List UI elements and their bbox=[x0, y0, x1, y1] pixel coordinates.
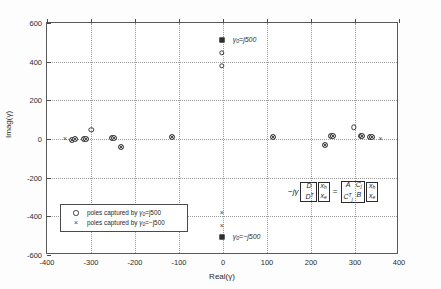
x-tick bbox=[355, 19, 356, 23]
equation-equals: = bbox=[333, 187, 338, 196]
x-tick bbox=[179, 19, 180, 23]
y-tick bbox=[47, 62, 51, 63]
data-point-overlap bbox=[69, 137, 75, 143]
legend-row-cross: poles captured by γ0=−j500 bbox=[65, 218, 183, 228]
data-point-circle bbox=[219, 50, 224, 55]
gridline-vertical bbox=[311, 23, 312, 253]
gridline-horizontal bbox=[47, 178, 397, 179]
x-axis-title: Real(γ) bbox=[46, 272, 398, 281]
y-tick-label: 200 bbox=[29, 96, 42, 105]
x-tick bbox=[135, 19, 136, 23]
data-point-cross bbox=[219, 223, 225, 229]
y-tick-label: -600 bbox=[27, 251, 42, 260]
data-point-overlap bbox=[81, 136, 87, 142]
x-tick-label: -100 bbox=[171, 258, 186, 267]
x-tick-label: 200 bbox=[305, 258, 318, 267]
data-point-shift bbox=[219, 234, 224, 239]
y-tick bbox=[47, 178, 51, 179]
legend-box: poles captured by γ0=j500 poles captured… bbox=[60, 204, 188, 232]
data-point-cross bbox=[378, 136, 384, 142]
x-tick bbox=[91, 19, 92, 23]
data-point-overlap bbox=[369, 134, 375, 140]
y-tick bbox=[47, 23, 51, 24]
gridline-vertical bbox=[267, 23, 268, 253]
data-point-overlap bbox=[72, 136, 78, 142]
cross-marker bbox=[65, 220, 87, 226]
gridline-vertical bbox=[355, 23, 356, 253]
y-tick bbox=[47, 139, 51, 140]
y-tick-label: -200 bbox=[27, 173, 42, 182]
data-point-overlap bbox=[118, 144, 124, 150]
x-tick bbox=[267, 19, 268, 23]
equation-right-matrix: ACj CTjB bbox=[341, 181, 365, 203]
annotation-gamma-negative: γ0=−j500 bbox=[233, 233, 261, 241]
equation-right-vector: xh xe bbox=[366, 182, 378, 202]
equation-left-vector: xh xe bbox=[318, 182, 330, 202]
data-point-overlap bbox=[330, 133, 336, 139]
y-tick bbox=[47, 100, 51, 101]
x-tick-label: 100 bbox=[261, 258, 274, 267]
x-tick-label: 400 bbox=[393, 258, 406, 267]
y-tick bbox=[47, 255, 51, 256]
data-point-overlap bbox=[169, 134, 175, 140]
data-point-overlap bbox=[359, 133, 365, 139]
data-point-shift bbox=[219, 38, 224, 43]
circle-marker bbox=[65, 210, 87, 215]
data-point-circle bbox=[351, 125, 356, 130]
data-point-overlap bbox=[358, 133, 364, 139]
x-tick-label: 0 bbox=[221, 258, 225, 267]
x-tick-label: 300 bbox=[349, 258, 362, 267]
data-point-circle bbox=[219, 63, 224, 68]
data-point-cross bbox=[219, 210, 225, 216]
legend-label-circle: poles captured by γ0=j500 bbox=[87, 209, 161, 217]
scatter-plot-figure: -400-300-200-1000100200300400-600-400-20… bbox=[0, 0, 441, 289]
y-tick bbox=[47, 216, 51, 217]
y-tick-label: 0 bbox=[38, 135, 42, 144]
y-tick-label: 400 bbox=[29, 57, 42, 66]
x-tick-label: -300 bbox=[83, 258, 98, 267]
data-point-overlap bbox=[111, 135, 117, 141]
equation-left-matrix: D DT bbox=[300, 182, 316, 201]
gridline-horizontal bbox=[47, 62, 397, 63]
legend-label-cross: poles captured by γ0=−j500 bbox=[87, 219, 165, 227]
x-tick-label: -200 bbox=[127, 258, 142, 267]
data-point-circle bbox=[89, 127, 94, 132]
annotation-gamma-positive: γ0=j500 bbox=[233, 36, 257, 44]
y-axis-title: Imag(γ) bbox=[4, 111, 13, 138]
data-point-cross bbox=[62, 136, 68, 142]
legend-row-circle: poles captured by γ0=j500 bbox=[65, 208, 183, 218]
x-tick bbox=[399, 19, 400, 23]
data-point-overlap bbox=[109, 135, 115, 141]
data-point-overlap bbox=[367, 134, 373, 140]
gridline-vertical bbox=[223, 23, 224, 253]
x-tick bbox=[311, 19, 312, 23]
data-point-overlap bbox=[270, 134, 276, 140]
x-tick bbox=[223, 19, 224, 23]
y-tick-label: 600 bbox=[29, 19, 42, 28]
gridline-horizontal bbox=[47, 139, 397, 140]
equation-lead: −jγ bbox=[288, 187, 298, 196]
data-point-overlap bbox=[328, 133, 334, 139]
data-point-overlap bbox=[322, 142, 328, 148]
data-point-overlap bbox=[83, 136, 89, 142]
matrix-eigenvalue-equation: −jγ D DT xh xe = ACj CTjB xh xe bbox=[288, 181, 378, 203]
y-tick-label: -400 bbox=[27, 212, 42, 221]
gridline-horizontal bbox=[47, 100, 397, 101]
